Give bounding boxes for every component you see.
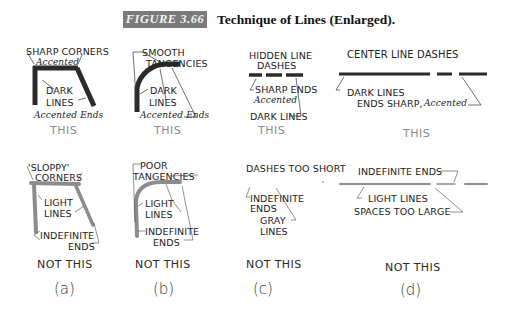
callout-lines: LINES xyxy=(149,97,177,108)
panel-letter-c: (c) xyxy=(253,280,273,298)
callout-ends-sharp: ENDS SHARP, xyxy=(357,98,423,109)
verdict-this: THIS xyxy=(50,124,77,137)
callout-indefinite-ends: INDEFINITE ENDS xyxy=(358,166,442,177)
callout-accented: Accented xyxy=(36,57,79,68)
callout-light: LIGHT xyxy=(145,198,174,209)
callout-ends: ENDS xyxy=(153,237,180,248)
panel-letter-b: (b) xyxy=(153,280,174,298)
heading-dashes: DASHES xyxy=(257,60,296,71)
verdict-not-this: NOT THIS xyxy=(385,261,441,274)
callout-light-lines: LIGHT LINES xyxy=(368,193,428,204)
callout-ends: ENDS xyxy=(68,241,95,252)
callout-tangencies: TANGENCIES xyxy=(133,171,195,182)
verdict-this: THIS xyxy=(403,127,430,140)
verdict-not-this: NOT THIS xyxy=(246,258,302,271)
callout-smooth: SMOOTH xyxy=(142,47,185,58)
callout-accented: Accented xyxy=(424,98,467,109)
heading-dashes-too-short: DASHES TOO SHORT xyxy=(246,163,346,174)
callout-accented-ends: Accented Ends xyxy=(34,110,103,121)
verdict-this: THIS xyxy=(154,124,181,137)
verdict-not-this: NOT THIS xyxy=(37,258,93,271)
panel-d-bad-drawing xyxy=(322,182,487,184)
callout-accented: Accented xyxy=(254,95,297,106)
callout-lines: LINES xyxy=(260,226,288,237)
verdict-not-this: NOT THIS xyxy=(135,258,191,271)
callout-tangencies: TANGENCIES xyxy=(146,58,208,69)
callout-light: LIGHT xyxy=(44,197,73,208)
callout-lines: LINES xyxy=(145,209,173,220)
callout-dark: DARK xyxy=(150,85,177,96)
callout-dark: DARK xyxy=(46,85,73,96)
callout-accented-ends: Accented Ends xyxy=(140,110,209,121)
callout-gray: GRAY xyxy=(260,215,286,226)
callout-spaces-too-large: SPACES TOO LARGE xyxy=(354,206,451,217)
callout-sharp-ends: SHARP ENDS xyxy=(255,84,317,95)
callout-sharp-corners: SHARP CORNERS xyxy=(26,46,109,57)
callout-lines: LINES xyxy=(46,97,74,108)
callout-corners: CORNERS xyxy=(35,172,82,183)
heading-center-line-dashes: CENTER LINE DASHES xyxy=(347,49,459,60)
panel-letter-a: (a) xyxy=(54,280,75,298)
callout-dark-lines: DARK LINES xyxy=(347,87,405,98)
callout-lines: LINES xyxy=(44,208,72,219)
verdict-this: THIS xyxy=(258,124,285,137)
callout-poor: POOR xyxy=(140,160,168,171)
callout-indefinite: INDEFINITE xyxy=(145,226,199,237)
callout-dark-lines: DARK LINES xyxy=(250,111,308,122)
callout-indefinite: INDEFINITE xyxy=(40,230,94,241)
panel-letter-d: (d) xyxy=(400,281,421,299)
callout-ends: ENDS xyxy=(250,203,277,214)
